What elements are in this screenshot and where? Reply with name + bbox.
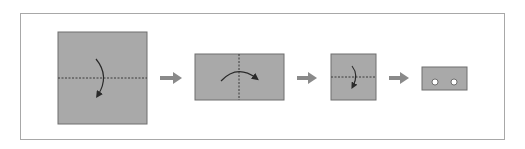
step-3	[331, 54, 376, 100]
step-1	[58, 32, 147, 124]
paper-rectangle	[422, 67, 467, 90]
transition-arrow-icon	[389, 72, 409, 84]
step-2	[195, 54, 284, 100]
transition-arrow-icon	[160, 72, 182, 84]
step-4	[422, 67, 467, 90]
folding-diagram	[0, 0, 525, 149]
transition-arrow-icon	[297, 72, 317, 84]
paper-square	[58, 32, 147, 124]
hole-icon	[432, 79, 438, 85]
hole-icon	[451, 79, 457, 85]
